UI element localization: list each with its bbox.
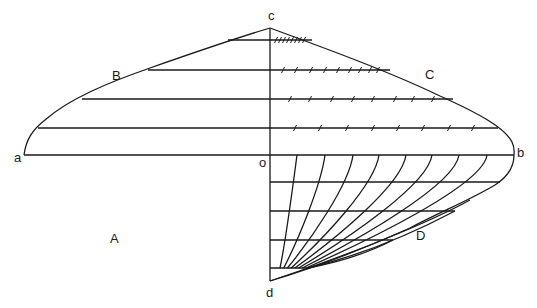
label-o: o [259,155,266,170]
point-labels: cBCaobADd [14,8,524,300]
diagram-canvas: cBCaobADd [0,0,537,308]
focus-to-d-line [270,268,308,281]
label-b: b [517,145,524,160]
curve-C [270,28,514,155]
label-A: A [110,231,119,246]
label-a: a [14,150,22,165]
curve-B [24,28,270,155]
label-B: B [112,68,121,83]
label-d: d [266,285,273,300]
label-D: D [416,228,425,243]
label-C: C [425,67,434,82]
label-c: c [268,8,275,23]
fan-curves [270,155,487,281]
